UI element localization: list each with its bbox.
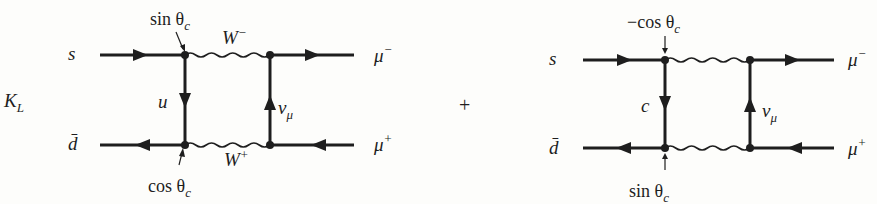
feynman-diagrams: KL s d̄ μ− μ+ u νμ W− W+ [0, 0, 877, 204]
neutrino-label: νμ [762, 100, 777, 125]
charm-quark-label: c [641, 95, 650, 116]
pointer-arrow-icon [662, 48, 668, 54]
w-plus-boson-line [665, 146, 750, 150]
arrow-right-icon [305, 49, 320, 61]
kaon-label: KL [3, 90, 24, 115]
muon-minus-label: μ− [847, 46, 866, 70]
w-plus-label: W+ [224, 147, 249, 170]
plus-operator: + [459, 94, 470, 116]
coupling-top-label: −cos θc [627, 12, 680, 36]
vertex-dot [661, 144, 669, 152]
arrow-down-icon [659, 96, 671, 111]
neutrino-label: νμ [278, 97, 293, 122]
pointer-arrow-icon [662, 153, 668, 159]
anti-down-quark-label: d̄ [68, 133, 78, 154]
vertex-dot [266, 141, 274, 149]
arrow-left-icon [311, 139, 326, 151]
up-quark-label: u [158, 91, 168, 112]
diagram-charm-quark-box: s d̄ μ− μ+ c νμ −cos θc [549, 12, 866, 204]
arrow-left-icon [787, 142, 802, 154]
anti-down-quark-label: d̄ [549, 137, 559, 158]
muon-plus-label: μ+ [847, 135, 866, 159]
muon-plus-label: μ+ [373, 131, 392, 155]
vertex-dot [181, 141, 189, 149]
vertex-dot [661, 56, 669, 64]
arrow-down-icon [179, 93, 191, 108]
arrow-up-icon [744, 97, 756, 112]
w-minus-label: W− [222, 25, 247, 48]
arrow-right-icon [133, 49, 148, 61]
w-plus-boson-line [185, 143, 270, 147]
muon-minus-label: μ− [373, 42, 392, 66]
strange-quark-label: s [549, 48, 556, 69]
pointer-arrow-icon [179, 148, 185, 157]
w-minus-boson-line [665, 58, 750, 62]
diagram-up-quark-box: s d̄ μ− μ+ u νμ W− W+ sin θc [68, 9, 392, 200]
w-minus-boson-line [185, 53, 270, 57]
vertex-dot [181, 51, 189, 59]
pointer-arrow-icon [180, 44, 185, 52]
vertex-dot [746, 144, 754, 152]
arrow-right-icon [617, 54, 632, 66]
coupling-bottom-label: cos θc [148, 176, 191, 200]
arrow-left-icon [616, 142, 631, 154]
arrow-up-icon [264, 95, 276, 110]
coupling-top-label: sin θc [150, 9, 190, 33]
strange-quark-label: s [68, 43, 75, 64]
coupling-bottom-label: sin θc [629, 181, 669, 204]
arrow-right-icon [785, 54, 800, 66]
arrow-left-icon [135, 139, 150, 151]
vertex-dot [266, 51, 274, 59]
vertex-dot [746, 56, 754, 64]
